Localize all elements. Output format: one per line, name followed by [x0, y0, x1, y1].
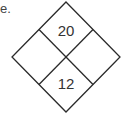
diamond-outline: [12, 2, 120, 112]
diamond-diagram: 20 12: [0, 0, 122, 120]
cell-bottom-value: 12: [58, 75, 75, 92]
cell-top-value: 20: [58, 22, 75, 39]
